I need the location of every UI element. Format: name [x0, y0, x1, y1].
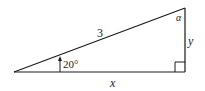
angle-arrow-icon — [58, 56, 62, 72]
hypotenuse-label: 3 — [97, 26, 103, 40]
angle-label: 20° — [63, 58, 78, 70]
vertical-side-label: y — [187, 34, 194, 48]
horizontal-side-label: x — [109, 76, 116, 90]
right-angle-marker — [175, 62, 185, 72]
top-angle-label: α — [176, 12, 182, 23]
hypotenuse-line — [14, 8, 185, 72]
triangle-diagram: 3 20° α y x — [0, 0, 205, 91]
